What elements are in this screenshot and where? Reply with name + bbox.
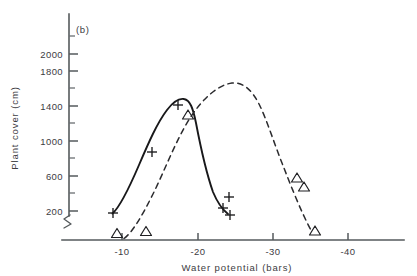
x-tick-label-minus30: -30 <box>266 246 281 257</box>
axes-group <box>62 14 404 240</box>
figure-panel-b: 2000 1800 1400 1000 600 200 -10 -20 -30 … <box>0 0 417 276</box>
plot-area: 2000 1800 1400 1000 600 200 -10 -20 -30 … <box>0 0 417 276</box>
marker-triangle <box>141 227 152 236</box>
x-tick-label-minus40: -40 <box>341 246 356 257</box>
y-ticks-group <box>69 36 78 211</box>
x-tick-labels-group: -10 -20 -30 -40 <box>115 246 356 257</box>
y-tick-label-600: 600 <box>46 171 63 182</box>
marker-plus <box>224 192 234 202</box>
x-tick-label-minus10: -10 <box>115 246 130 257</box>
y-tick-label-1400: 1400 <box>40 101 63 112</box>
y-axis-break-icon <box>64 215 71 228</box>
y-tick-labels-group: 2000 1800 1400 1000 600 200 <box>40 49 63 217</box>
x-tick-label-minus20: -20 <box>191 246 206 257</box>
y-axis-title: Plant cover (cm) <box>9 86 20 170</box>
y-tick-label-200: 200 <box>46 206 63 217</box>
marker-triangle <box>310 226 321 235</box>
y-tick-label-2000: 2000 <box>40 49 63 60</box>
dashed-series-markers <box>112 110 321 238</box>
y-tick-label-1800: 1800 <box>40 66 63 77</box>
marker-plus <box>147 147 157 157</box>
marker-triangle <box>299 182 310 191</box>
solid-series-markers <box>108 100 235 220</box>
panel-label: (b) <box>76 24 89 35</box>
marker-triangle <box>292 173 303 182</box>
x-ticks-group <box>122 233 348 240</box>
marker-triangle <box>112 229 123 238</box>
y-tick-label-1000: 1000 <box>40 136 63 147</box>
dashed-curve-path <box>124 83 312 239</box>
x-axis-title: Water potential (bars) <box>182 262 293 273</box>
